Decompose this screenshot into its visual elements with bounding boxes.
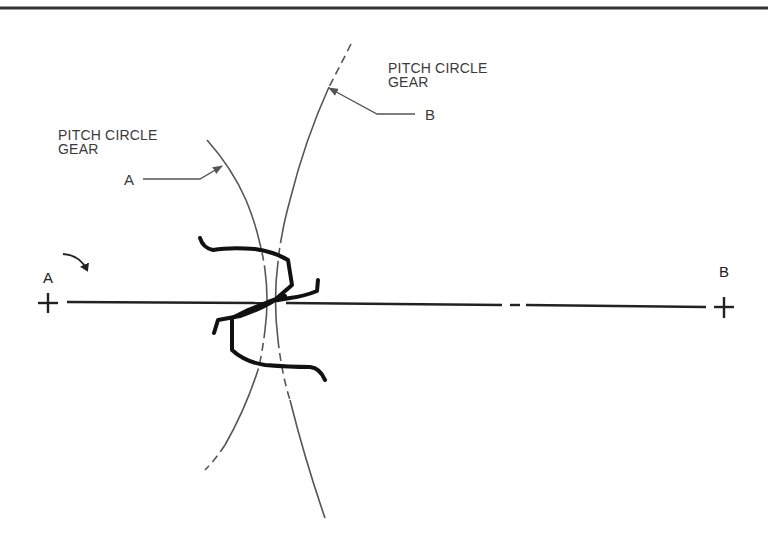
- gear-teeth: [200, 238, 325, 380]
- gear-b-callout-line1: PITCH CIRCLE: [388, 61, 488, 75]
- pitch-circle-gear-b: [276, 44, 352, 518]
- gear-b-callout-leader: [329, 88, 415, 114]
- gear-a-callout-line2: GEAR: [58, 142, 98, 156]
- gear-a-center-cross-icon: [38, 293, 58, 313]
- gear-b-center-label: B: [719, 265, 729, 279]
- gear-b-callout-letter: B: [425, 108, 435, 122]
- gear-a-center-label: A: [43, 271, 53, 285]
- gear-a-callout-leader: [143, 166, 222, 179]
- gear-b-center-cross-icon: [714, 297, 734, 318]
- rotation-arrow-icon: [63, 254, 87, 270]
- gear-a-callout-letter: A: [124, 173, 134, 187]
- gear-a-callout-line1: PITCH CIRCLE: [58, 128, 158, 142]
- gear-pitch-circle-diagram: [0, 0, 768, 545]
- center-line: [67, 302, 706, 307]
- gear-b-callout-line2: GEAR: [388, 75, 428, 89]
